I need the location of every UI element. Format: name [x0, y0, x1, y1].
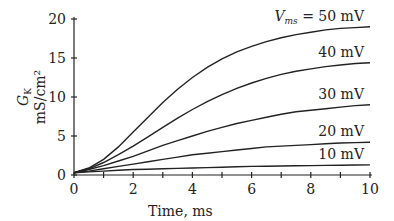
x-tick-label: 2	[129, 181, 138, 197]
x-tick-label: 8	[306, 181, 315, 197]
x-axis-label: Time, ms	[148, 203, 213, 219]
series-label: 20 mV	[318, 123, 365, 139]
y-tick-label: 15	[48, 50, 66, 66]
x-tick-label: 4	[188, 181, 197, 197]
conductance-chart: 024681005101520 Vms = 50 mV40 mV30 mV20 …	[0, 0, 394, 221]
y-tick-label: 0	[57, 167, 66, 183]
y-axis-label-symbol: GK	[15, 88, 33, 106]
y-axis-label-units: mS/cm²	[32, 70, 48, 124]
x-tick-label: 0	[70, 181, 79, 197]
y-tick-label: 5	[57, 128, 66, 144]
series-label: Vms = 50 mV	[274, 8, 364, 26]
y-axis-label: GK mS/cm²	[15, 70, 48, 124]
x-tick-label: 10	[361, 181, 379, 197]
x-tick-label: 6	[247, 181, 256, 197]
series-label: 30 mV	[318, 86, 365, 102]
y-tick-label: 10	[48, 89, 66, 105]
y-tick-label: 20	[48, 11, 66, 27]
series-label: 10 mV	[318, 146, 365, 162]
series-label: 40 mV	[318, 44, 365, 60]
